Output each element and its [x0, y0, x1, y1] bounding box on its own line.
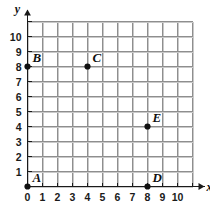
x-axis-tick-label: 10 — [172, 191, 184, 203]
point-label-e: E — [152, 110, 162, 125]
x-axis-arrowhead — [199, 183, 205, 190]
coordinate-grid-svg: 012345678910 12345678910 xy ABCDE — [0, 0, 210, 213]
point-marker-b — [24, 63, 30, 69]
x-axis-tick-label: 1 — [40, 191, 46, 203]
y-axis-tick-label: 6 — [16, 91, 22, 103]
x-axis-tick-labels: 012345678910 — [25, 191, 184, 203]
x-axis-tick-label: 2 — [55, 191, 61, 203]
y-axis-tick-label: 4 — [16, 121, 22, 133]
x-axis-tick-label: 3 — [70, 191, 76, 203]
x-axis-name: x — [206, 180, 211, 194]
point-label-c: C — [93, 50, 102, 65]
x-axis-tick-label: 4 — [85, 191, 91, 203]
grid-lines — [28, 22, 194, 188]
y-axis-tick-label: 1 — [16, 166, 22, 178]
point-marker-d — [144, 183, 150, 189]
y-axis-tick-label: 3 — [16, 136, 22, 148]
point-label-d: D — [152, 170, 163, 185]
y-axis-tick-label: 5 — [16, 106, 22, 118]
plotted-points: ABCDE — [24, 50, 162, 190]
y-axis-arrowhead — [24, 10, 31, 16]
x-axis-tick-label: 5 — [100, 191, 106, 203]
x-axis-tick-label: 0 — [25, 191, 31, 203]
point-marker-e — [144, 123, 150, 129]
y-axis-tick-label: 7 — [16, 76, 22, 88]
y-axis-tick-labels: 12345678910 — [10, 31, 22, 178]
x-axis-tick-label: 7 — [130, 191, 136, 203]
y-axis-tick-label: 2 — [16, 151, 22, 163]
point-label-b: B — [32, 50, 42, 65]
x-axis-tick-label: 8 — [145, 191, 151, 203]
y-axis-name: y — [13, 2, 21, 16]
point-marker-c — [84, 63, 90, 69]
x-axis-tick-label: 6 — [115, 191, 121, 203]
y-axis-tick-label: 9 — [16, 46, 22, 58]
y-axis-tick-label: 10 — [10, 31, 22, 43]
point-marker-a — [24, 183, 30, 189]
y-axis-tick-label: 8 — [16, 61, 22, 73]
coordinate-plane-figure: 012345678910 12345678910 xy ABCDE — [0, 0, 210, 213]
x-axis-tick-label: 9 — [160, 191, 166, 203]
point-label-a: A — [32, 170, 42, 185]
